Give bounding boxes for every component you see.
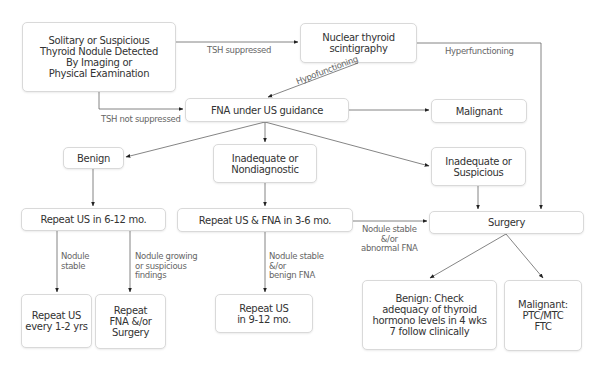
node-inadequate-nondiagnostic: Inadequate or Nondiagnostic xyxy=(213,144,317,183)
node-benign-check: Benign: Check adequacy of thyroid hormon… xyxy=(362,280,497,350)
node-repeat-us-9-12: Repeat US in 9-12 mo. xyxy=(215,294,313,333)
node-malignant-top: Malignant xyxy=(431,99,527,123)
node-fna: FNA under US guidance xyxy=(185,98,349,122)
label-nodule-growing: Nodule growing or suspicious findings xyxy=(135,252,197,281)
label-nodule-stable: Nodule stable xyxy=(61,252,89,271)
node-surgery: Surgery xyxy=(429,211,584,234)
node-repeat-fna-surgery: Repeat FNA &/or Surgery xyxy=(95,294,166,349)
node-start: Solitary or Suspicious Thyroid Nodule De… xyxy=(22,22,176,92)
label-tsh-suppressed: TSH suppressed xyxy=(207,46,271,56)
node-repeat-us-fna-3-6: Repeat US & FNA in 3-6 mo. xyxy=(177,208,353,232)
label-nodule-stable-abnormal: Nodule stable &/or abnormal FNA xyxy=(361,225,418,254)
node-malignant-types: Malignant: PTC/MTC FTC xyxy=(504,280,582,351)
label-hyperfunctioning: Hyperfunctioning xyxy=(445,47,514,57)
node-repeat-us-6-12: Repeat US in 6-12 mo. xyxy=(21,208,166,231)
node-scintigraphy: Nuclear thyroid scintigraphy xyxy=(300,23,417,63)
node-repeat-us-1-2: Repeat US every 1-2 yrs xyxy=(21,294,92,348)
label-tsh-not-suppressed: TSH not suppressed xyxy=(101,115,181,125)
node-inadequate-suspicious: Inadequate or Suspicious xyxy=(431,147,526,186)
label-nodule-stable-benign: Nodule stable &/or benign FNA xyxy=(269,252,324,281)
node-benign: Benign xyxy=(63,147,124,169)
